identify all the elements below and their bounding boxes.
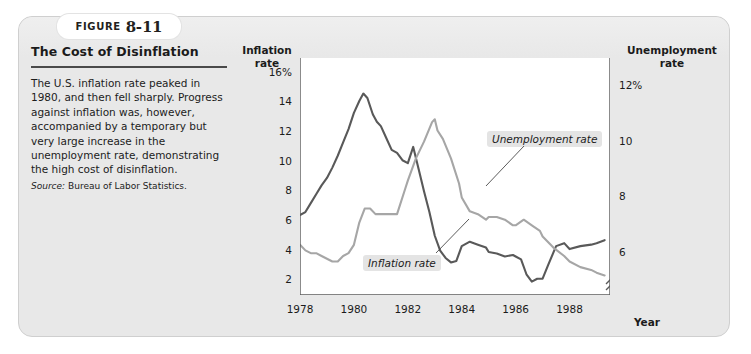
right-axis-tick-label: 8	[619, 190, 655, 202]
x-axis-tick-label: 1988	[547, 303, 593, 315]
caption-title: The Cost of Disinflation	[31, 44, 229, 59]
left-axis-tick-label: 16%	[256, 66, 292, 78]
source-label: Source:	[31, 181, 65, 191]
series-annotation-unemployment: Unemployment rate	[487, 131, 602, 147]
chart-plot-area	[300, 58, 610, 295]
right-axis-tick-label: 12%	[619, 79, 655, 91]
caption-block: The Cost of Disinflation The U.S. inflat…	[31, 44, 229, 192]
left-axis-tick-label: 2	[256, 273, 292, 285]
x-axis-title: Year	[600, 316, 660, 329]
right-axis-title-text: Unemployment rate	[627, 44, 717, 69]
figure-number-label: 8-11	[126, 18, 163, 36]
left-axis-title-text: Inflation rate	[242, 44, 292, 69]
x-axis-tick-label: 1982	[385, 303, 431, 315]
x-axis-tick-label: 1984	[439, 303, 485, 315]
x-axis-tick-label: 1986	[493, 303, 539, 315]
left-axis-tick-label: 14	[256, 95, 292, 107]
figure-screenshot: Figure 8-11 The Cost of Disinflation The…	[0, 0, 751, 354]
left-axis-tick-label: 8	[256, 184, 292, 196]
left-axis-tick-label: 6	[256, 214, 292, 226]
series-annotation-inflation: Inflation rate	[363, 255, 441, 271]
caption-divider	[31, 66, 227, 68]
chart-svg	[300, 58, 610, 295]
figure-number-tab: Figure 8-11	[57, 14, 181, 39]
right-axis-tick-label: 10	[619, 135, 655, 147]
left-axis-tick-label: 12	[256, 125, 292, 137]
left-axis-tick-label: 4	[256, 244, 292, 256]
plot-background	[300, 58, 610, 295]
x-axis-tick-label: 1980	[331, 303, 377, 315]
caption-body: The U.S. inflation rate peaked in 1980, …	[31, 76, 227, 177]
right-axis-tick-label: 6	[619, 246, 655, 258]
x-axis-title-text: Year	[634, 316, 660, 328]
caption-source: Source: Bureau of Labor Statistics.	[31, 180, 229, 192]
left-axis-tick-label: 10	[256, 155, 292, 167]
x-axis-tick-label: 1978	[277, 303, 323, 315]
source-text: Bureau of Labor Statistics.	[68, 181, 187, 191]
figure-word-label: Figure	[76, 21, 121, 32]
right-axis-title: Unemployment rate	[616, 44, 728, 69]
